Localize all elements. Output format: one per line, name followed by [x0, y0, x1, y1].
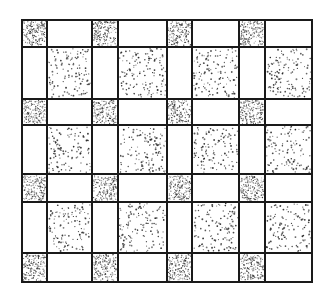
blank-cell — [47, 253, 92, 282]
small-stippled-square — [92, 253, 118, 282]
small-stippled-square — [239, 253, 265, 282]
plaid-grid-figure — [0, 0, 330, 291]
blank-cell — [92, 47, 118, 99]
blank-cell — [265, 99, 312, 125]
large-dotted-square — [47, 47, 92, 99]
blank-cell — [118, 253, 167, 282]
small-stippled-square — [239, 99, 265, 125]
small-stippled-square — [167, 20, 192, 47]
small-stippled-square — [239, 20, 265, 47]
blank-cell — [47, 20, 92, 47]
blank-cell — [265, 174, 312, 202]
blank-cell — [47, 99, 92, 125]
small-stippled-square — [239, 174, 265, 202]
small-stippled-square — [92, 20, 118, 47]
blank-cell — [192, 253, 239, 282]
large-dotted-square — [118, 202, 167, 253]
small-stippled-square — [22, 20, 47, 47]
large-dotted-square — [192, 47, 239, 99]
large-dotted-square — [47, 202, 92, 253]
small-stippled-square — [22, 253, 47, 282]
blank-cell — [265, 253, 312, 282]
blank-cell — [22, 202, 47, 253]
blank-cell — [192, 174, 239, 202]
grid-drawing — [0, 0, 330, 291]
large-dotted-square — [265, 202, 312, 253]
blank-cell — [118, 99, 167, 125]
small-stippled-square — [22, 174, 47, 202]
blank-cell — [239, 125, 265, 174]
blank-cell — [167, 47, 192, 99]
small-stippled-square — [167, 99, 192, 125]
large-dotted-square — [118, 125, 167, 174]
blank-cell — [92, 202, 118, 253]
blank-cell — [92, 125, 118, 174]
large-dotted-square — [192, 125, 239, 174]
blank-cell — [239, 47, 265, 99]
large-dotted-square — [47, 125, 92, 174]
small-stippled-square — [92, 99, 118, 125]
blank-cell — [22, 47, 47, 99]
blank-cell — [118, 174, 167, 202]
large-dotted-square — [265, 125, 312, 174]
large-dotted-square — [118, 47, 167, 99]
blank-cell — [47, 174, 92, 202]
blank-cell — [192, 20, 239, 47]
large-dotted-square — [265, 47, 312, 99]
small-stippled-square — [167, 253, 192, 282]
blank-cell — [22, 125, 47, 174]
large-dotted-square — [192, 202, 239, 253]
blank-cell — [192, 99, 239, 125]
blank-cell — [167, 125, 192, 174]
small-stippled-square — [167, 174, 192, 202]
blank-cell — [239, 202, 265, 253]
small-stippled-square — [22, 99, 47, 125]
blank-cell — [118, 20, 167, 47]
blank-cell — [167, 202, 192, 253]
small-stippled-square — [92, 174, 118, 202]
blank-cell — [265, 20, 312, 47]
